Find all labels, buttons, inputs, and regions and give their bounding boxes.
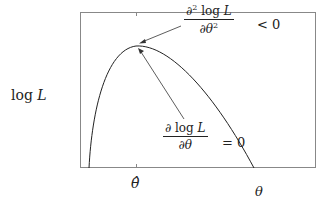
first-derivative-denominator: ∂θ [179,137,192,152]
var-L: L [224,4,232,18]
y-axis-label-var: L [37,87,46,103]
arrowhead-icon [138,48,144,54]
first-derivative-arrow [141,52,184,119]
denominator-text: ∂θ [200,22,213,36]
y-axis-label: log L [11,87,47,103]
arrowhead-icon [139,39,146,44]
first-derivative-fraction: ∂ log L ∂θ [163,121,208,152]
first-derivative-numerator: ∂ log L [163,121,208,137]
first-derivative-relation: = 0 [222,135,245,150]
second-derivative-relation: < 0 [257,17,280,32]
second-derivative-arrow [142,26,181,42]
theta-hat-label: θ̂ [131,175,139,191]
plot-canvas [0,0,332,212]
second-derivative-denominator: ∂θ2 [200,20,219,36]
y-axis-label-prefix: log [11,87,37,103]
numerator-text: ∂ log [165,121,198,135]
var-L: L [198,121,206,135]
second-derivative-numerator: ∂2 log L [184,3,234,20]
exponent: 2 [213,21,218,30]
x-axis-label: θ [255,184,263,199]
log-text: log [197,4,223,18]
second-derivative-fraction: ∂2 log L ∂θ2 [184,3,234,36]
